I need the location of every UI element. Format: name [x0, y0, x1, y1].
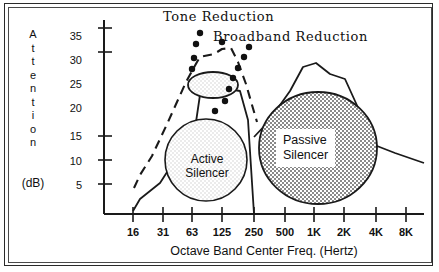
y-axis-label-char: t — [22, 42, 44, 56]
x-tick-label-31: 31 — [148, 226, 178, 238]
x-tick-label-2k: 2K — [329, 226, 359, 238]
y-tick-label-5: 5 — [56, 179, 82, 191]
x-tick-label-1k: 1K — [299, 226, 329, 238]
marker-tone-peak-ellipse — [188, 72, 238, 98]
y-axis-label-char: n — [22, 82, 44, 96]
x-tick-label-4k: 4K — [361, 226, 391, 238]
passive-silencer-label-line1: Passive — [283, 133, 328, 148]
axis-lines — [104, 20, 424, 214]
y-axis-label-char: e — [22, 69, 44, 83]
y-tick-label-20: 20 — [56, 102, 82, 114]
active-silencer-label: Active Silencer — [183, 152, 231, 180]
y-tick-label-15: 15 — [56, 130, 82, 142]
y-axis-label-char: i — [22, 109, 44, 123]
x-tick-label-16: 16 — [118, 226, 148, 238]
x-tick-label-125: 125 — [207, 226, 237, 238]
y-tick-label-25: 25 — [56, 78, 82, 90]
x-tick-label-500: 500 — [270, 226, 300, 238]
x-axis-title: Octave Band Center Freq. (Hertz) — [104, 244, 424, 258]
x-tick-label-63: 63 — [177, 226, 207, 238]
y-tick-label-35: 35 — [56, 30, 82, 42]
y-tick-label-30: 30 — [56, 54, 82, 66]
figure-container: A t t e n t i o n (dB) 35 30 25 20 15 10… — [0, 0, 439, 272]
y-axis-label-char: n — [22, 136, 44, 150]
y-axis-units: (dB) — [14, 176, 52, 190]
passive-silencer-label: Passive Silencer — [276, 129, 335, 167]
active-silencer-label-line2: Silencer — [183, 166, 231, 180]
y-axis-label-char: A — [22, 28, 44, 42]
y-axis-label-char: t — [22, 55, 44, 69]
y-tick-label-10: 10 — [56, 155, 82, 167]
y-axis-label-char: t — [22, 96, 44, 110]
broadband-reduction-title: Broadband Reduction — [213, 29, 368, 44]
passive-silencer-label-line2: Silencer — [283, 148, 328, 163]
x-tick-label-8k: 8K — [391, 226, 421, 238]
y-axis-label: A t t e n t i o n — [22, 28, 44, 150]
tone-reduction-title: Tone Reduction — [163, 9, 274, 24]
active-silencer-label-line1: Active — [183, 152, 231, 166]
x-tick-label-250: 250 — [239, 226, 269, 238]
y-axis-label-char: o — [22, 123, 44, 137]
